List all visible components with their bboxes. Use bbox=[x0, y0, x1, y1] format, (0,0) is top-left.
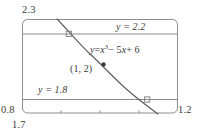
x-min-label: 1.7 bbox=[12, 120, 26, 131]
curve-equation-label: y=x3− 5x+ 6 bbox=[90, 45, 140, 55]
y-max-label: 2.3 bbox=[22, 5, 36, 16]
y-min-label: 0.8 bbox=[1, 105, 15, 116]
eq-minus-term: − 5 bbox=[108, 44, 121, 55]
point-marker-1-2 bbox=[101, 62, 105, 66]
point-label: (1, 2) bbox=[70, 64, 92, 74]
lower-line-label: y = 1.8 bbox=[38, 85, 67, 95]
math-graph-figure: 2.3 0.8 1.7 1.2 y = 2.2 y = 1.8 (1, 2) y… bbox=[0, 0, 202, 137]
graph-canvas bbox=[0, 0, 202, 137]
x-max-label: 1.2 bbox=[178, 105, 192, 116]
eq-plus-term: + 6 bbox=[126, 44, 139, 55]
upper-line-label: y = 2.2 bbox=[116, 22, 145, 32]
